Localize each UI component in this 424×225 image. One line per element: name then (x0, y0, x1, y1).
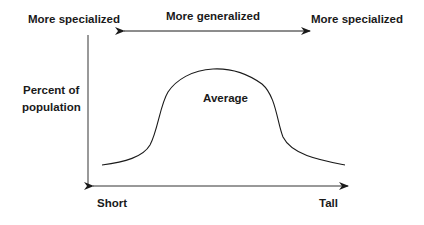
x-axis-right-label: Tall (319, 197, 338, 210)
y-axis-label-line2: population (22, 101, 81, 114)
y-axis-label-line1: Percent of (23, 84, 79, 97)
top-center-label: More generalized (166, 10, 260, 23)
x-axis-left-label: Short (97, 197, 127, 210)
curve-peak-label: Average (203, 92, 248, 105)
bell-curve (102, 69, 345, 165)
top-right-label: More specialized (311, 13, 403, 26)
top-left-label: More specialized (28, 13, 120, 26)
